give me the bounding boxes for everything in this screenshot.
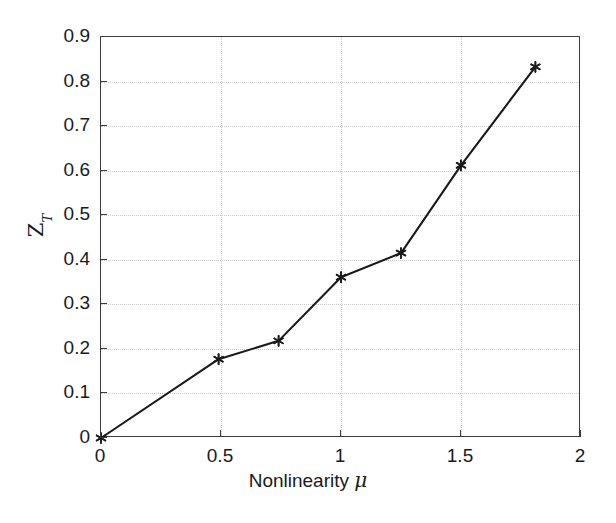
y-tickmark [100, 348, 107, 349]
y-tickmark [100, 392, 107, 393]
mu-symbol: μ [354, 468, 367, 492]
data-point-marker [97, 433, 106, 443]
x-tick-label: 0.5 [180, 446, 260, 465]
x-tickmark [580, 430, 581, 437]
y-tick-label: 0.9 [24, 26, 90, 45]
x-tick-label: 1 [300, 446, 380, 465]
x-tick-label: 2 [540, 446, 616, 465]
y-tickmark [100, 437, 107, 438]
y-axis-label-base: Z [24, 223, 48, 238]
x-tickmark [460, 430, 461, 437]
y-tick-label: 0.6 [24, 160, 90, 179]
y-tick-label: 0 [24, 427, 90, 446]
y-tick-label: 0.7 [24, 115, 90, 134]
y-tick-label: 0.2 [24, 338, 90, 357]
y-tickmark [100, 214, 107, 215]
y-axis-label-subscript: T [40, 214, 55, 223]
x-tickmark [220, 430, 221, 437]
x-axis-label: Nonlinearity μ [0, 468, 616, 492]
y-tickmark [100, 170, 107, 171]
y-tickmark [100, 125, 107, 126]
x-tick-label: 1.5 [420, 446, 500, 465]
x-tick-label: 0 [60, 446, 140, 465]
y-tickmark [100, 81, 107, 82]
plot-area [100, 36, 580, 437]
y-axis-label: ZT [24, 186, 51, 266]
data-series-layer [101, 37, 581, 438]
y-tick-label: 0.1 [24, 382, 90, 401]
x-tickmark [340, 430, 341, 437]
x-axis-label-text: Nonlinearity [249, 470, 355, 491]
y-tick-label: 0.8 [24, 71, 90, 90]
y-tickmark [100, 259, 107, 260]
y-tickmark [100, 303, 107, 304]
y-tickmark [100, 36, 107, 37]
series-line [101, 67, 535, 438]
y-tick-label: 0.3 [24, 293, 90, 312]
x-tickmark [100, 430, 101, 437]
chart-figure: 00.10.20.30.40.50.60.70.80.9 00.511.52 N… [0, 0, 616, 523]
